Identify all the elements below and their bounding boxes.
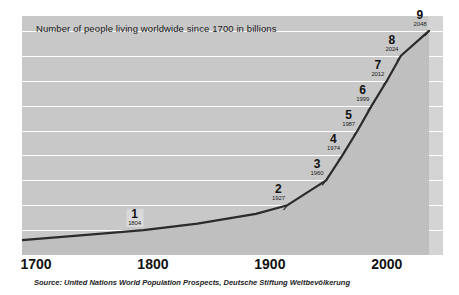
chart-title: Number of people living worldwide since … xyxy=(36,23,277,34)
milestone-number: 4 xyxy=(327,134,340,145)
source-note: Source: United Nations World Population … xyxy=(34,278,350,287)
milestone-label: 82024 xyxy=(385,35,398,53)
milestone-year: 1987 xyxy=(342,121,355,128)
x-axis-tick: 1900 xyxy=(254,256,285,272)
milestone-number: 8 xyxy=(385,35,398,46)
x-axis: 1700180019002000 xyxy=(22,256,443,276)
milestone-year: 1999 xyxy=(356,96,369,103)
milestone-label: 41974 xyxy=(327,134,340,152)
milestone-label: 31960 xyxy=(311,159,324,177)
milestone-number: 1 xyxy=(126,209,143,220)
milestone-number: 5 xyxy=(342,110,355,121)
plot-area xyxy=(22,16,443,255)
milestone-year: 1974 xyxy=(327,145,340,152)
x-axis-tick: 2000 xyxy=(371,256,402,272)
milestone-label: 11804 xyxy=(126,209,143,227)
milestone-year: 1960 xyxy=(311,170,324,177)
milestone-number: 2 xyxy=(272,184,285,195)
series-area xyxy=(22,31,429,255)
milestone-year: 1804 xyxy=(126,220,143,227)
milestone-number: 3 xyxy=(311,159,324,170)
x-axis-tick: 1700 xyxy=(20,256,51,272)
milestone-year: 2048 xyxy=(413,21,426,28)
milestone-number: 9 xyxy=(413,10,426,21)
population-line-series xyxy=(22,16,443,255)
x-axis-tick: 1800 xyxy=(137,256,168,272)
milestone-label: 61999 xyxy=(356,85,369,103)
milestone-label: 72012 xyxy=(371,60,384,78)
milestone-number: 6 xyxy=(356,85,369,96)
milestone-year: 2024 xyxy=(385,46,398,53)
milestone-number: 7 xyxy=(371,60,384,71)
milestone-label: 21927 xyxy=(272,184,285,202)
milestone-year: 2012 xyxy=(371,71,384,78)
milestone-label: 92048 xyxy=(413,10,426,28)
milestone-label: 51987 xyxy=(342,110,355,128)
milestone-year: 1927 xyxy=(272,195,285,202)
chart-screenshot: Number of people living worldwide since … xyxy=(0,0,459,295)
